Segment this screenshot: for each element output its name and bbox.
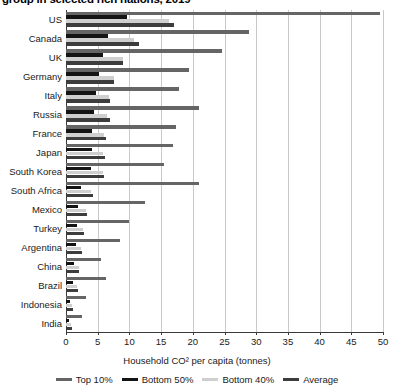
y-axis-label: China	[0, 260, 62, 271]
bar	[66, 99, 110, 102]
bar	[66, 270, 79, 273]
bar	[66, 129, 92, 132]
bar	[66, 258, 101, 261]
gridline-50	[383, 10, 384, 332]
bar	[66, 224, 77, 227]
chart-legend: Top 10%Bottom 50%Bottom 40%Average	[0, 374, 394, 385]
bar	[66, 300, 70, 303]
bar	[66, 277, 106, 280]
bar	[66, 190, 91, 193]
bar-group	[66, 256, 383, 275]
legend-item[interactable]: Top 10%	[56, 374, 113, 385]
bar	[66, 91, 96, 94]
bar	[66, 49, 222, 52]
bar	[66, 281, 73, 284]
y-axis-label: Japan	[0, 147, 62, 158]
bar	[66, 53, 103, 56]
chart-title: group in selected rich nations, 2019	[2, 0, 392, 5]
legend-item[interactable]: Average	[283, 374, 338, 385]
bar	[66, 148, 92, 151]
bar	[66, 118, 110, 121]
bar	[66, 76, 114, 79]
bar	[66, 42, 139, 45]
y-axis-label: Brazil	[0, 279, 62, 290]
bar	[66, 239, 120, 242]
y-axis-label: South Korea	[0, 166, 62, 177]
bar-group	[66, 29, 383, 48]
bar	[66, 201, 145, 204]
bar-group	[66, 218, 383, 237]
legend-item[interactable]: Bottom 40%	[202, 374, 274, 385]
bar	[66, 213, 87, 216]
legend-swatch-icon	[283, 378, 299, 382]
bar	[66, 110, 94, 113]
bar	[66, 327, 72, 330]
legend-label: Top 10%	[76, 374, 113, 385]
legend-label: Bottom 50%	[142, 374, 194, 385]
tickmark-20	[193, 332, 194, 335]
bar	[66, 194, 93, 197]
bar	[66, 296, 86, 299]
bar	[66, 19, 169, 22]
bar	[66, 152, 103, 155]
x-axis-tick-label: 5	[95, 336, 100, 347]
y-axis-label: Indonesia	[0, 298, 62, 309]
tickmark-40	[320, 332, 321, 335]
bar	[66, 323, 71, 326]
bar	[66, 38, 134, 41]
x-axis-tick-label: 10	[124, 336, 135, 347]
bar	[66, 61, 123, 64]
bar-group	[66, 48, 383, 67]
bar	[66, 205, 78, 208]
y-axis-label: Argentina	[0, 241, 62, 252]
y-axis-label: India	[0, 317, 62, 328]
bar-group	[66, 143, 383, 162]
y-axis-label: US	[0, 14, 62, 25]
bar	[66, 304, 72, 307]
bar	[66, 34, 108, 37]
bar	[66, 285, 77, 288]
legend-item[interactable]: Bottom 50%	[122, 374, 194, 385]
x-axis-tick-label: 20	[188, 336, 199, 347]
x-axis-tick-label: 40	[314, 336, 325, 347]
bar-group	[66, 294, 383, 313]
bar	[66, 308, 73, 311]
bar	[66, 167, 91, 170]
tickmark-5	[98, 332, 99, 335]
bar	[66, 87, 179, 90]
y-axis-label: Canada	[0, 33, 62, 44]
x-axis-tick-label: 50	[378, 336, 389, 347]
bar	[66, 220, 129, 223]
bar	[66, 171, 103, 174]
y-axis-label: Italy	[0, 90, 62, 101]
bar-group	[66, 67, 383, 86]
x-axis-tick-label: 15	[156, 336, 167, 347]
bar	[66, 156, 105, 159]
bar	[66, 80, 114, 83]
tickmark-50	[383, 332, 384, 335]
x-axis-tick-label: 30	[251, 336, 262, 347]
tickmark-25	[225, 332, 226, 335]
tickmark-15	[161, 332, 162, 335]
bar	[66, 289, 78, 292]
bar-group	[66, 275, 383, 294]
legend-label: Bottom 40%	[222, 374, 274, 385]
bar	[66, 12, 380, 15]
bar	[66, 243, 76, 246]
bar-group	[66, 162, 383, 181]
bar	[66, 209, 86, 212]
legend-swatch-icon	[122, 378, 138, 382]
bar	[66, 30, 249, 33]
bar	[66, 315, 82, 318]
y-axis-label: Russia	[0, 109, 62, 120]
bar	[66, 15, 127, 18]
bar	[66, 266, 79, 269]
bar	[66, 251, 82, 254]
bar-group	[66, 105, 383, 124]
legend-swatch-icon	[56, 378, 72, 382]
bar	[66, 175, 104, 178]
bar	[66, 262, 74, 265]
bar	[66, 163, 164, 166]
bar-rows	[66, 10, 383, 332]
tickmark-45	[351, 332, 352, 335]
